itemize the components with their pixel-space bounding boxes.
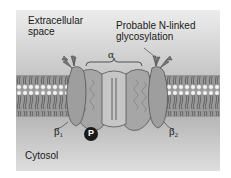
cytosol-label: Cytosol bbox=[25, 150, 58, 161]
beta1-subunit bbox=[67, 67, 86, 126]
extracellular-label-line2: space bbox=[28, 26, 55, 37]
phosphate-label: P bbox=[88, 128, 94, 139]
beta2-subscript: 2 bbox=[175, 131, 179, 139]
membrane-protein-diagram: Extracellular space Probable N-linked gl… bbox=[16, 10, 220, 171]
beta2-label: β2 bbox=[169, 126, 178, 141]
beta1-subscript: 1 bbox=[60, 131, 64, 139]
glycosylation-label-line1: Probable N-linked bbox=[116, 20, 196, 31]
alpha-subunit bbox=[75, 69, 154, 130]
beta1-label: β1 bbox=[54, 126, 63, 141]
alpha-label: α bbox=[108, 49, 114, 60]
extracellular-label-line1: Extracellular bbox=[28, 15, 83, 26]
glycosylation-label-line2: glycosylation bbox=[116, 31, 173, 42]
beta2-subunit bbox=[148, 67, 167, 128]
